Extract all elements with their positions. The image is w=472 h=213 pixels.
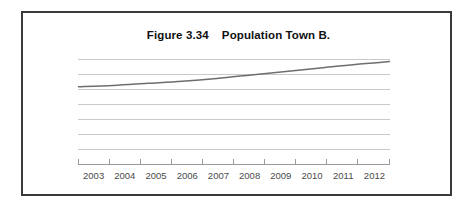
x-tick-label: 2005	[140, 170, 171, 181]
plot-area	[78, 58, 390, 167]
x-tick-label: 2012	[359, 170, 390, 181]
chart-title: Figure 3.34 Population Town B.	[23, 29, 454, 41]
line-chart-svg	[78, 58, 390, 167]
x-tick-label: 2011	[328, 170, 359, 181]
figure-frame: Figure 3.34 Population Town B.	[21, 11, 452, 196]
x-tick-label: 2009	[265, 170, 296, 181]
x-tick-label: 2003	[78, 170, 109, 181]
x-axis-labels: 2003200420052006200720082009201020112012	[78, 170, 390, 181]
x-axis-group	[78, 159, 390, 165]
x-tick-label: 2010	[296, 170, 327, 181]
x-tick-label: 2006	[172, 170, 203, 181]
x-tick-label: 2008	[234, 170, 265, 181]
x-tick-label: 2007	[203, 170, 234, 181]
figure-root: Figure 3.34 Population Town B.	[0, 0, 472, 213]
x-tick-label: 2004	[109, 170, 140, 181]
gridlines-group	[78, 60, 390, 150]
